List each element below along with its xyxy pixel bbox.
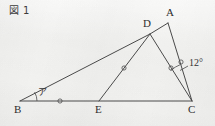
angle-arc-at-B	[35, 92, 37, 101]
vertex-label-B: B	[14, 104, 21, 115]
figure-caption: 図 1	[9, 4, 30, 17]
vertex-label-E: E	[95, 104, 102, 115]
vertex-label-D: D	[143, 18, 151, 29]
tick-marks-group	[58, 60, 183, 103]
segment-ED	[99, 34, 150, 101]
figure-canvas: 図 1 B E C D A ア 12°	[0, 0, 215, 126]
segment-DA	[150, 23, 168, 34]
angle-label-at-B: ア	[38, 88, 47, 97]
vertex-label-C: C	[188, 104, 195, 115]
geometry-drawing	[0, 0, 215, 126]
angle-arcs-group	[35, 65, 188, 101]
angle-label-at-C: 12°	[189, 58, 203, 67]
vertex-label-A: A	[166, 7, 174, 18]
